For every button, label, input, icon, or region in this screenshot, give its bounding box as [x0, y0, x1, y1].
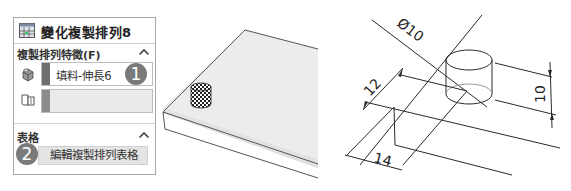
cylinder-boss-selected[interactable] — [191, 83, 211, 108]
plate-top-face — [163, 30, 318, 168]
dim-height-label: 10 — [532, 85, 548, 103]
diameter-leader — [372, 20, 487, 107]
base-edge-vertical — [394, 107, 395, 145]
cylinder-bottom-front — [446, 94, 492, 104]
dim-14-label: 14 — [372, 149, 393, 169]
graphics-area: Ø10 10 12 14 — [0, 0, 571, 191]
dim12-ext-top — [401, 75, 467, 91]
plate-model[interactable] — [163, 30, 318, 178]
height-ext-top — [495, 63, 552, 77]
cylinder-bottom-back — [446, 84, 492, 94]
base-edge-bottom — [395, 145, 512, 175]
base-edge-diagonal — [403, 91, 467, 165]
dim-12-label: 12 — [360, 75, 384, 99]
plate-corner-edge — [163, 112, 165, 129]
dimension-arrows — [363, 68, 554, 120]
cylinder-top — [446, 50, 492, 70]
